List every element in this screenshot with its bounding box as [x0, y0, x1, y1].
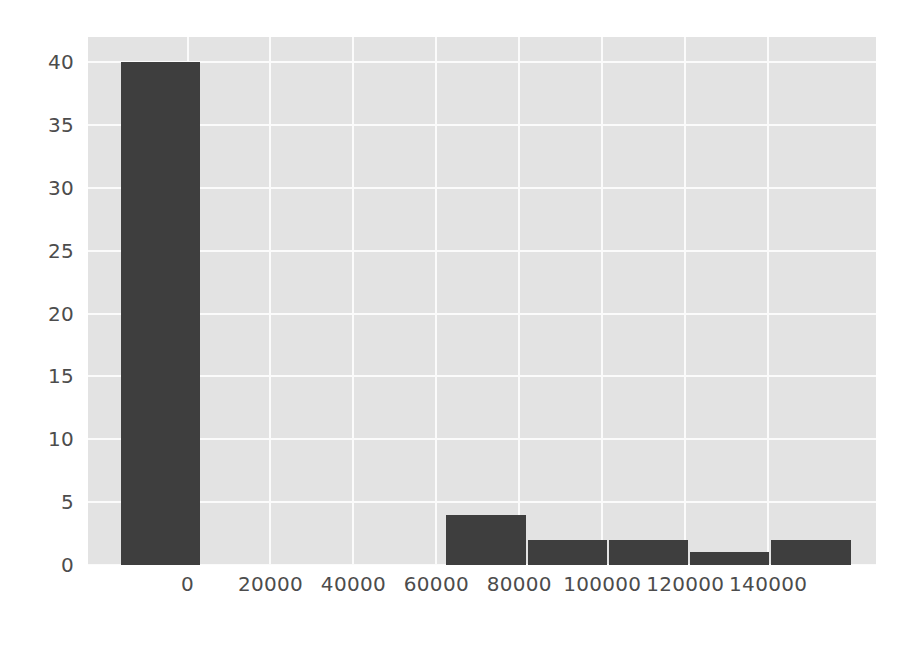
x-axis-tick-label: 120000 [646, 572, 724, 596]
x-axis-tick-labels: 020000400006000080000100000120000140000 [88, 572, 876, 612]
y-axis-tick-label: 20 [20, 302, 74, 326]
gridline-horizontal [88, 375, 876, 377]
y-axis-tick-label: 35 [20, 113, 74, 137]
x-axis-tick-label: 100000 [563, 572, 641, 596]
gridline-vertical [601, 37, 603, 565]
y-axis-tick-label: 10 [20, 427, 74, 451]
gridline-horizontal [88, 61, 876, 63]
x-axis-tick-label: 40000 [321, 572, 386, 596]
histogram-bar [121, 62, 200, 565]
x-axis-tick-label: 140000 [729, 572, 807, 596]
gridline-horizontal [88, 313, 876, 315]
histogram-bar [446, 515, 525, 565]
y-axis-tick-label: 5 [20, 490, 74, 514]
histogram-bar [690, 552, 769, 565]
x-axis-tick-label: 20000 [238, 572, 303, 596]
histogram-bar [609, 540, 688, 565]
y-axis-tick-label: 40 [20, 50, 74, 74]
gridline-vertical [269, 37, 271, 565]
gridline-vertical [684, 37, 686, 565]
gridline-vertical [352, 37, 354, 565]
x-axis-tick-label: 60000 [404, 572, 469, 596]
histogram-figure: 0510152025303540 02000040000600008000010… [0, 0, 914, 649]
gridline-horizontal [88, 438, 876, 440]
gridline-vertical [767, 37, 769, 565]
gridline-horizontal [88, 250, 876, 252]
y-axis-tick-label: 0 [20, 553, 74, 577]
x-axis-tick-label: 80000 [487, 572, 552, 596]
y-axis-tick-label: 15 [20, 364, 74, 388]
y-axis-tick-label: 25 [20, 239, 74, 263]
y-axis-tick-labels: 0510152025303540 [0, 37, 74, 565]
y-axis-tick-label: 30 [20, 176, 74, 200]
gridline-horizontal [88, 501, 876, 503]
plot-area [88, 37, 876, 565]
gridline-horizontal [88, 124, 876, 126]
x-axis-tick-label: 0 [181, 572, 194, 596]
histogram-bar [771, 540, 850, 565]
gridline-vertical [518, 37, 520, 565]
gridline-vertical [435, 37, 437, 565]
histogram-bar [528, 540, 607, 565]
gridline-horizontal [88, 187, 876, 189]
